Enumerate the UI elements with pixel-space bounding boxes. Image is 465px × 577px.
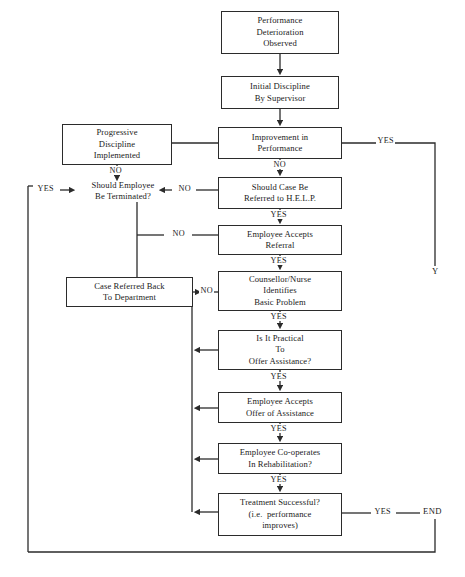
node-line: Should Case Be [252,182,308,193]
node-improvement-in-performance[interactable]: Improvement in Performance [218,127,342,159]
flowchart-canvas: Performance Deterioration Observed Initi… [0,0,465,577]
node-line: To Department [103,292,156,303]
node-line: Referral [266,240,295,251]
edge-label-help-yes: YES [269,210,288,219]
node-line: Counsellor/Nurse [249,274,311,285]
node-line: Observed [263,38,297,49]
node-employee-accepts-offer-of-assistance[interactable]: Employee Accepts Offer of Assistance [218,392,342,423]
terminal-label-y: Y [430,266,441,276]
node-line: Referred to H.E.L.P. [244,193,316,204]
node-should-case-be-referred-to-help[interactable]: Should Case Be Referred to H.E.L.P. [218,177,342,209]
node-line: Employee Co-operates [240,447,321,458]
node-line: Identifies [263,285,296,296]
node-line: Performance [257,15,302,26]
node-line: Discipline [99,139,135,150]
node-line: Implemented [94,150,140,161]
node-line: By Supervisor [255,93,306,104]
edge-label-terminated-yes: YES [36,184,55,193]
node-employee-accepts-referral[interactable]: Employee Accepts Referral [218,225,342,255]
node-line: Employee Accepts [247,396,313,407]
connector-improvement-yes [342,143,435,266]
node-case-referred-back-to-department[interactable]: Case Referred Back To Department [66,277,193,307]
edge-label-progressive-no: NO [108,166,123,175]
node-line: Is It Practical [256,333,303,344]
edge-label-practical-yes: YES [269,372,288,381]
node-line: Deterioration [256,27,303,38]
terminal-label-end: END [421,506,444,516]
node-line: Performance [257,143,302,154]
node-is-it-practical-to-offer-assistance[interactable]: Is It Practical To Offer Assistance? [218,330,342,370]
node-line: Offer Assistance? [249,356,311,367]
edge-label-improvement-no: NO [272,160,287,169]
node-line: Employee Accepts [247,229,313,240]
node-line: To [275,344,284,355]
node-performance-deterioration-observed[interactable]: Performance Deterioration Observed [221,11,339,54]
node-line: Improvement in [252,132,309,143]
node-line: improves) [262,520,298,531]
node-line: Progressive [96,127,137,138]
edge-label-counsellor-no: NO [199,286,214,295]
node-line: Should Employee [92,180,155,191]
node-counsellor-nurse-identifies-basic-problem[interactable]: Counsellor/Nurse Identifies Basic Proble… [218,271,342,311]
node-progressive-discipline-implemented[interactable]: Progressive Discipline Implemented [62,124,172,165]
edge-label-accepts-offer-yes: YES [269,424,288,433]
edge-label-referral-yes: YES [269,256,288,265]
node-employee-co-operates-in-rehabilitation[interactable]: Employee Co-operates In Rehabilitation? [218,443,342,474]
node-line: Be Terminated? [95,191,151,202]
node-initial-discipline-by-supervisor[interactable]: Initial Discipline By Supervisor [221,76,339,109]
edge-label-improvement-yes: YES [376,136,395,145]
edge-label-help-no: NO [177,184,192,193]
edge-label-referral-no: NO [171,229,186,238]
node-line: In Rehabilitation? [248,459,312,470]
node-line: Basic Problem [254,297,306,308]
node-treatment-successful[interactable]: Treatment Successful? (i.e. performance … [218,493,342,536]
node-line: Treatment Successful? [240,497,320,508]
node-line: (i.e. performance [249,509,312,520]
node-line: Initial Discipline [250,81,310,92]
edge-label-counsellor-yes: YES [269,312,288,321]
edge-label-co-operates-yes: YES [269,475,288,484]
edge-label-treatment-yes: YES [373,507,392,516]
node-line: Offer of Assistance [246,408,314,419]
node-line: Case Referred Back [94,281,165,292]
node-should-employee-be-terminated[interactable]: Should Employee Be Terminated? [73,180,173,202]
